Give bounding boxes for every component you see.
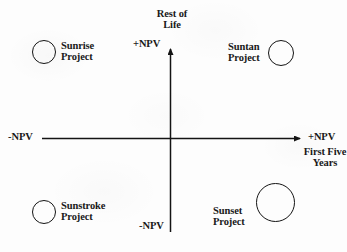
label-sunset-project-line2: Project [213, 216, 245, 227]
vertical-axis-caption: Rest of Life [146, 8, 198, 31]
label-suntan-project: Suntan Project [228, 41, 260, 64]
vertical-axis-caption-line1: Rest of [146, 8, 198, 19]
bubble-sunstroke-project [32, 200, 56, 224]
label-sunset-project-line1: Sunset [213, 205, 245, 216]
vertical-axis-caption-line2: Life [146, 19, 198, 30]
horizontal-axis-caption-line2: Years [303, 157, 347, 168]
horizontal-axis-caption: First Five Years [303, 146, 347, 169]
label-suntan-project-line2: Project [228, 52, 260, 63]
horizontal-axis-caption-line1: First Five [303, 146, 347, 157]
label-suntan-project-line1: Suntan [228, 41, 260, 52]
horizontal-axis-negative-label: -NPV [8, 131, 33, 142]
horizontal-axis-positive-label: +NPV [308, 131, 335, 142]
label-sunset-project: Sunset Project [213, 205, 245, 228]
bubble-sunrise-project [32, 40, 56, 64]
label-sunrise-project-line2: Project [61, 51, 94, 62]
label-sunstroke-project-line2: Project [61, 211, 105, 222]
label-sunstroke-project-line1: Sunstroke [61, 200, 105, 211]
vertical-axis-negative-label: -NPV [139, 220, 164, 231]
bubble-sunset-project [256, 183, 295, 222]
label-sunrise-project-line1: Sunrise [61, 40, 94, 51]
bubble-suntan-project [268, 40, 294, 66]
npv-matrix-diagram: Rest of Life +NPV -NPV -NPV +NPV First F… [0, 0, 347, 252]
label-sunrise-project: Sunrise Project [61, 40, 94, 63]
vertical-axis-positive-label: +NPV [133, 38, 160, 49]
label-sunstroke-project: Sunstroke Project [61, 200, 105, 223]
